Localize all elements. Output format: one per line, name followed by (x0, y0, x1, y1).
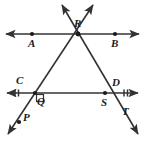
geometry-diagram: A B R C D Q S P T (0, 0, 145, 141)
point-dot-a (30, 32, 34, 36)
point-label-c: C (16, 74, 24, 86)
point-dot-r (76, 32, 81, 37)
point-label-b: B (110, 37, 118, 49)
point-label-r: R (73, 17, 81, 29)
point-label-q: Q (37, 95, 45, 107)
point-dot-p (17, 120, 21, 124)
point-label-d: D (111, 76, 120, 88)
point-dot-b (113, 32, 117, 36)
point-label-t: T (122, 105, 130, 117)
point-dot-s (103, 91, 107, 95)
point-label-p: P (23, 111, 30, 123)
geometry-canvas: A B R C D Q S P T (0, 0, 145, 141)
point-label-a: A (27, 37, 35, 49)
point-label-s: S (101, 96, 107, 108)
